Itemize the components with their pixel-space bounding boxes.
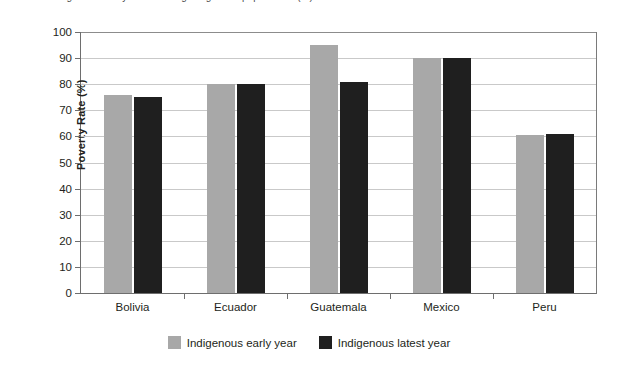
bar-ecuador-early <box>207 84 235 293</box>
y-axis-tick <box>75 267 81 268</box>
y-axis-tick <box>75 215 81 216</box>
x-axis-label-peru: Peru <box>532 301 556 313</box>
bar-mexico-early <box>413 58 441 293</box>
y-axis-label: 0 <box>66 287 72 299</box>
y-axis-label: 50 <box>59 157 72 169</box>
y-axis-tick <box>75 189 81 190</box>
y-axis-tick <box>75 163 81 164</box>
y-axis-label: 80 <box>59 78 72 90</box>
bar-guatemala-early <box>310 45 338 293</box>
bar-guatemala-latest <box>340 82 368 293</box>
y-axis-label: 60 <box>59 130 72 142</box>
legend-label: Indigenous latest year <box>338 337 451 349</box>
x-axis-tick <box>287 293 288 299</box>
x-axis-tick <box>493 293 494 299</box>
y-axis-title: Poverty Rate (%) <box>75 79 87 170</box>
y-axis-label: 90 <box>59 52 72 64</box>
legend-swatch-icon <box>319 336 332 349</box>
x-axis-tick <box>184 293 185 299</box>
chart-legend: Indigenous early yearIndigenous latest y… <box>0 336 618 349</box>
y-axis-tick <box>75 32 81 33</box>
y-axis-tick <box>75 241 81 242</box>
y-axis-label: 30 <box>59 209 72 221</box>
y-axis-tick <box>75 84 81 85</box>
y-axis-label: 10 <box>59 261 72 273</box>
gridline <box>81 32 596 33</box>
bar-bolivia-early <box>104 95 132 293</box>
legend-item-latest-year: Indigenous latest year <box>319 336 451 349</box>
bar-mexico-latest <box>443 58 471 293</box>
x-axis-label-guatemala: Guatemala <box>310 301 366 313</box>
legend-swatch-icon <box>168 336 181 349</box>
y-axis-tick <box>75 136 81 137</box>
x-axis-label-bolivia: Bolivia <box>116 301 150 313</box>
plot-area: Poverty Rate (%) 1009080706050403020100 … <box>80 32 597 294</box>
x-axis-label-mexico: Mexico <box>423 301 459 313</box>
y-axis-tick <box>75 110 81 111</box>
bar-peru-early <box>516 135 544 293</box>
gridline <box>81 58 596 59</box>
bar-peru-latest <box>546 134 574 293</box>
y-axis-tick <box>75 58 81 59</box>
y-axis-label: 20 <box>59 235 72 247</box>
y-axis-label: 70 <box>59 104 72 116</box>
y-axis-label: 40 <box>59 183 72 195</box>
gridline <box>81 84 596 85</box>
bar-chart: Poverty Rate (%) 1009080706050403020100 … <box>0 0 618 383</box>
y-axis-label: 100 <box>53 26 72 38</box>
y-axis-tick <box>75 293 81 294</box>
bar-ecuador-latest <box>237 84 265 293</box>
bar-bolivia-latest <box>134 97 162 293</box>
legend-item-early-year: Indigenous early year <box>168 336 297 349</box>
legend-label: Indigenous early year <box>187 337 297 349</box>
x-axis-label-ecuador: Ecuador <box>214 301 257 313</box>
x-axis-tick <box>390 293 391 299</box>
